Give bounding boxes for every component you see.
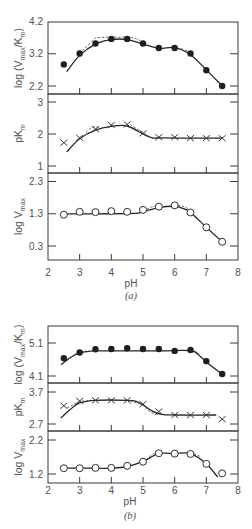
x-tick-label: 7 bbox=[204, 267, 210, 278]
y-tick-label: 4.1 bbox=[29, 371, 43, 382]
y-axis-title: log Vmax bbox=[12, 197, 26, 235]
data-point-open-circle bbox=[140, 206, 147, 213]
data-point-filled-circle bbox=[140, 346, 146, 352]
x-tick-label: 5 bbox=[140, 267, 146, 278]
panel-frame bbox=[48, 173, 238, 260]
y-tick-label: 3.7 bbox=[29, 387, 43, 398]
data-point-open-circle bbox=[219, 470, 226, 477]
data-point-filled-circle bbox=[108, 346, 114, 352]
figure-b: 4.15.1log (Vmax/Km)2.73.7pKm1.22.2log Vm… bbox=[12, 325, 241, 522]
y-axis-title: log (Vmax/Km) bbox=[12, 325, 26, 385]
data-point-filled-circle bbox=[108, 36, 114, 42]
data-point-filled-circle bbox=[61, 355, 67, 361]
y-tick-label: 2.2 bbox=[29, 435, 43, 446]
figure: 2.23.24.2log (Vmax/Km)123pKm0.31.32.3log… bbox=[0, 0, 252, 529]
y-axis-title: pKm bbox=[12, 124, 26, 143]
data-point-open-circle bbox=[108, 208, 115, 215]
data-point-open-circle bbox=[187, 450, 194, 457]
y-tick-label: 1.3 bbox=[29, 208, 43, 219]
y-tick-label: 0.3 bbox=[29, 241, 43, 252]
data-point-open-circle bbox=[76, 208, 83, 215]
data-point-filled-circle bbox=[124, 345, 130, 351]
figure-caption: (a) bbox=[125, 290, 138, 302]
y-tick-label: 2.3 bbox=[29, 176, 43, 187]
x-tick-label: 3 bbox=[77, 485, 83, 496]
x-tick-label: 2 bbox=[45, 267, 51, 278]
data-point-open-circle bbox=[171, 202, 178, 209]
data-point-open-circle bbox=[155, 203, 162, 210]
data-point-open-circle bbox=[92, 209, 99, 216]
y-tick-label: 3.2 bbox=[29, 48, 43, 59]
data-point-filled-circle bbox=[140, 40, 146, 46]
figure-caption: (b) bbox=[124, 510, 137, 522]
x-tick-label: 8 bbox=[235, 267, 241, 278]
data-point-filled-circle bbox=[203, 358, 209, 364]
x-tick-label: 8 bbox=[235, 485, 241, 496]
panel-pkm: 2.73.7pKm bbox=[12, 383, 238, 431]
data-point-filled-circle bbox=[187, 50, 193, 56]
x-axis-title: pH bbox=[125, 278, 138, 289]
panel-log-vmax-km: 2.23.24.2log (Vmax/Km) bbox=[12, 16, 238, 94]
data-point-filled-circle bbox=[187, 347, 193, 353]
data-point-open-circle bbox=[124, 462, 131, 469]
x-tick-label: 6 bbox=[172, 267, 178, 278]
x-tick-label: 3 bbox=[77, 267, 83, 278]
y-tick-label: 1.2 bbox=[29, 469, 43, 480]
data-point-open-circle bbox=[140, 458, 147, 465]
data-point-filled-circle bbox=[76, 50, 82, 56]
data-point-filled-circle bbox=[156, 346, 162, 352]
data-point-filled-circle bbox=[171, 348, 177, 354]
y-axis-title: log (Vmax/Km) bbox=[12, 28, 26, 88]
y-axis-title: log Vmax bbox=[12, 438, 26, 476]
y-tick-label: 4.2 bbox=[29, 16, 43, 27]
panel-frame bbox=[48, 431, 238, 483]
data-point-filled-circle bbox=[61, 61, 67, 67]
x-tick-label: 2 bbox=[45, 485, 51, 496]
data-point-open-circle bbox=[124, 208, 131, 215]
data-point-filled-circle bbox=[76, 349, 82, 355]
panel-frame bbox=[48, 383, 238, 431]
data-point-cross bbox=[108, 122, 115, 128]
y-axis-title: pKm bbox=[12, 398, 26, 417]
x-tick-label: 7 bbox=[204, 485, 210, 496]
data-point-open-circle bbox=[108, 464, 115, 471]
data-point-filled-circle bbox=[92, 346, 98, 352]
panel-pkm: 123pKm bbox=[12, 94, 238, 173]
data-point-filled-circle bbox=[92, 40, 98, 46]
data-point-filled-circle bbox=[156, 45, 162, 51]
x-axis-title: pH bbox=[124, 496, 137, 507]
data-point-open-circle bbox=[203, 460, 210, 467]
x-tick-label: 4 bbox=[109, 485, 115, 496]
panel-log-vmax-km: 4.15.1log (Vmax/Km) bbox=[12, 325, 238, 385]
y-tick-label: 3 bbox=[37, 97, 43, 108]
data-point-filled-circle bbox=[219, 83, 225, 89]
y-tick-label: 5.1 bbox=[29, 338, 43, 349]
chart-canvas: 2.23.24.2log (Vmax/Km)123pKm0.31.32.3log… bbox=[0, 0, 252, 529]
y-tick-label: 2.7 bbox=[29, 419, 43, 430]
data-point-open-circle bbox=[171, 450, 178, 457]
data-point-cross bbox=[60, 140, 67, 146]
x-tick-label: 4 bbox=[109, 267, 115, 278]
data-point-filled-circle bbox=[124, 36, 130, 42]
y-tick-label: 2 bbox=[37, 129, 43, 140]
fit-curve-solid bbox=[61, 400, 216, 418]
y-tick-label: 1 bbox=[37, 161, 43, 172]
data-point-cross bbox=[171, 134, 178, 140]
data-point-filled-circle bbox=[219, 371, 225, 377]
x-tick-label: 5 bbox=[140, 485, 146, 496]
data-point-cross bbox=[60, 403, 67, 409]
data-point-open-circle bbox=[187, 209, 194, 216]
data-point-open-circle bbox=[92, 464, 99, 471]
x-tick-label: 6 bbox=[172, 485, 178, 496]
data-point-open-circle bbox=[76, 465, 83, 472]
panel-log-vmax: 0.31.32.3log Vmax bbox=[12, 173, 238, 260]
panel-log-vmax: 1.22.2log Vmax bbox=[12, 431, 238, 483]
figure-a: 2.23.24.2log (Vmax/Km)123pKm0.31.32.3log… bbox=[12, 16, 241, 302]
data-point-open-circle bbox=[60, 211, 67, 218]
data-point-filled-circle bbox=[203, 67, 209, 73]
data-point-filled-circle bbox=[171, 45, 177, 51]
data-point-cross bbox=[219, 416, 226, 422]
fit-curve-solid bbox=[67, 125, 222, 151]
y-tick-label: 2.2 bbox=[29, 81, 43, 92]
data-point-open-circle bbox=[203, 224, 210, 231]
